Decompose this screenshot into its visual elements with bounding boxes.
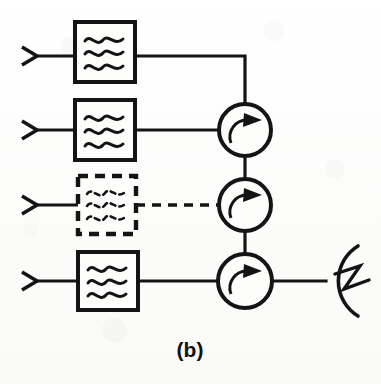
channel-2	[22, 100, 220, 160]
circulator-body[interactable]	[218, 254, 272, 308]
circulator-body[interactable]	[219, 104, 271, 156]
antenna[interactable]	[272, 246, 369, 316]
input-connector-icon	[22, 47, 37, 65]
figure-root: (b)	[0, 0, 381, 384]
bandpass-filter-2[interactable]	[75, 100, 135, 160]
bandpass-filter-3-optional[interactable]	[78, 176, 136, 234]
channel-4	[22, 252, 220, 310]
channel-1	[22, 22, 245, 105]
input-connector-icon	[22, 121, 37, 139]
circulator-3[interactable]	[218, 254, 272, 308]
rf-block-diagram: (b)	[0, 0, 381, 384]
circulator-body[interactable]	[219, 179, 271, 231]
circulator-1[interactable]	[219, 104, 271, 156]
bandpass-filter-1[interactable]	[75, 22, 135, 82]
channel-3	[22, 176, 220, 234]
circulator-2[interactable]	[219, 179, 271, 231]
input-connector-icon	[22, 196, 37, 214]
figure-caption: (b)	[177, 338, 204, 361]
bandpass-filter-4[interactable]	[78, 252, 138, 310]
input-connector-icon	[22, 272, 37, 290]
filter-to-circulator-wire	[135, 56, 245, 105]
